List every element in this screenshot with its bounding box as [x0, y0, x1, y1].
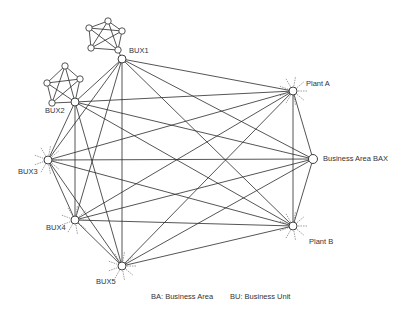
cluster-node	[44, 80, 50, 86]
edge	[48, 160, 75, 220]
cluster-node	[119, 28, 125, 34]
edge	[75, 220, 293, 226]
edge	[122, 59, 293, 226]
external-link-ray	[123, 251, 125, 261]
external-link-ray	[126, 269, 134, 275]
label-bux2: BUX2	[45, 107, 65, 115]
external-link-ray	[286, 230, 291, 239]
cluster-edge	[91, 48, 118, 50]
node-bux5	[118, 262, 126, 270]
label-planta: Plant A	[306, 80, 330, 88]
edge	[75, 220, 122, 266]
node-plantb	[289, 222, 297, 230]
edge	[75, 91, 293, 220]
external-link-ray	[297, 216, 305, 222]
node-bux2	[71, 98, 79, 106]
external-link-ray	[61, 215, 70, 218]
cluster-node	[86, 25, 92, 31]
external-link-ray	[34, 155, 43, 158]
external-link-ray	[297, 94, 305, 100]
edge	[75, 102, 293, 226]
external-link-ray	[41, 164, 46, 173]
external-link-ray	[108, 261, 117, 264]
external-link-ray	[108, 268, 117, 271]
label-bux1: BUX1	[129, 47, 149, 55]
node-bux3	[44, 156, 52, 164]
external-link-ray	[41, 147, 46, 156]
external-link-ray	[294, 76, 296, 86]
external-link-ray	[286, 213, 291, 222]
cluster-node	[77, 76, 83, 82]
cluster-edge	[89, 28, 122, 31]
external-link-ray	[286, 78, 291, 87]
cluster-node	[115, 47, 121, 53]
edge	[48, 159, 313, 160]
cluster-node	[105, 18, 111, 24]
label-bax: Business Area BAX	[323, 155, 388, 163]
external-link-ray	[49, 165, 51, 175]
external-link-ray	[123, 271, 125, 281]
edge	[122, 59, 293, 91]
edge	[75, 102, 122, 266]
cluster-edge	[91, 31, 122, 48]
node-bux4	[71, 216, 79, 224]
external-link-ray	[76, 225, 78, 235]
edge	[48, 160, 122, 266]
edge	[122, 59, 313, 159]
node-bax	[309, 155, 318, 164]
label-bux4: BUX4	[46, 224, 66, 232]
edge	[75, 59, 122, 220]
external-link-ray	[49, 145, 51, 155]
external-link-ray	[297, 81, 305, 87]
external-link-ray	[52, 163, 60, 169]
external-link-ray	[68, 224, 73, 233]
external-link-ray	[34, 162, 43, 165]
cluster-edge	[47, 79, 80, 83]
external-link-ray	[294, 231, 296, 241]
legend-ba: BA: Business Area	[151, 293, 213, 301]
node-bux1	[118, 55, 126, 63]
label-bux5: BUX5	[96, 278, 116, 286]
edge	[122, 226, 293, 266]
edge	[293, 159, 313, 226]
node-planta	[289, 87, 297, 95]
legend-bu: BU: Business Unit	[230, 293, 290, 301]
edge	[122, 91, 293, 266]
label-bux3: BUX3	[18, 168, 38, 176]
label-plantb: Plant B	[309, 238, 333, 246]
cluster-node	[62, 63, 68, 69]
edge	[75, 102, 313, 159]
external-link-ray	[297, 229, 305, 235]
edge	[293, 91, 313, 159]
cluster-node	[88, 45, 94, 51]
cluster-edge	[91, 21, 108, 48]
external-link-ray	[79, 223, 87, 229]
